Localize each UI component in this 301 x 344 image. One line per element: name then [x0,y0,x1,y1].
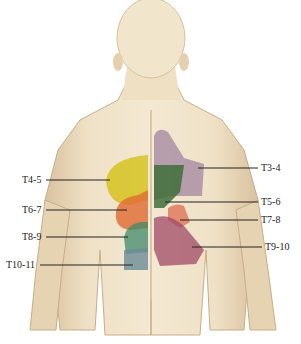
label-T5-6: T5-6 [261,197,280,207]
right-ear [179,53,189,71]
label-T6-7: T6-7 [22,205,41,215]
head [117,0,185,78]
label-T10-11: T10-11 [6,260,35,270]
label-T8-9: T8-9 [22,232,41,242]
zone-T10-11 [124,248,148,270]
label-T9-10: T9-10 [265,242,289,252]
label-T4-5: T4-5 [22,175,41,185]
label-T3-4: T3-4 [261,163,280,173]
back-dermatome-figure: T4-5 T6-7 T8-9 T10-11 T3-4 T5-6 T7-8 T9-… [0,0,301,344]
left-ear [113,53,123,71]
torso-illustration [0,0,301,344]
label-T7-8: T7-8 [261,215,280,225]
